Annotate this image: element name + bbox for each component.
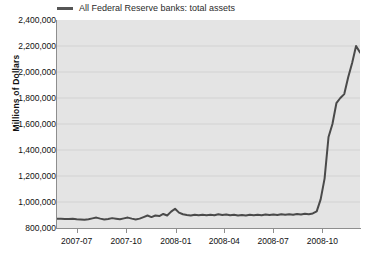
x-axis-tick-mark xyxy=(77,229,78,233)
x-axis-tick-label: 2008-10 xyxy=(307,237,338,246)
x-axis-tick-label: 2007-07 xyxy=(61,237,92,246)
legend-line-swatch xyxy=(57,7,73,10)
x-axis-tick-label: 2007-10 xyxy=(110,237,141,246)
y-axis-tick-labels: 800,0001,000,0001,200,0001,400,0001,600,… xyxy=(0,0,56,255)
y-axis-tick-label: 1,000,000 xyxy=(2,198,56,207)
x-axis-tick-label: 2008-07 xyxy=(257,237,288,246)
y-axis-tick-label: 1,200,000 xyxy=(2,172,56,181)
x-axis-tick-mark xyxy=(224,229,225,233)
x-axis-tick-mark xyxy=(126,229,127,233)
x-axis-tick-mark xyxy=(322,229,323,233)
x-axis-tick-label: 2008-01 xyxy=(160,237,191,246)
y-axis-title: Millions of Dollars xyxy=(11,33,21,153)
chart-container: All Federal Reserve banks: total assets … xyxy=(0,0,367,255)
x-axis-tick-label: 2008-04 xyxy=(209,237,240,246)
x-axis-tick-mark xyxy=(273,229,274,233)
series-canvas xyxy=(57,20,360,228)
legend-label-total-assets: All Federal Reserve banks: total assets xyxy=(79,4,235,13)
chart-legend: All Federal Reserve banks: total assets xyxy=(57,1,235,15)
plot-area xyxy=(57,20,360,228)
y-axis-tick-label: 2,400,000 xyxy=(2,16,56,25)
x-axis-tick-mark xyxy=(176,229,177,233)
gridlines xyxy=(57,46,360,202)
x-axis-tick-labels: 2007-072007-102008-012008-042008-072008-… xyxy=(0,229,367,255)
